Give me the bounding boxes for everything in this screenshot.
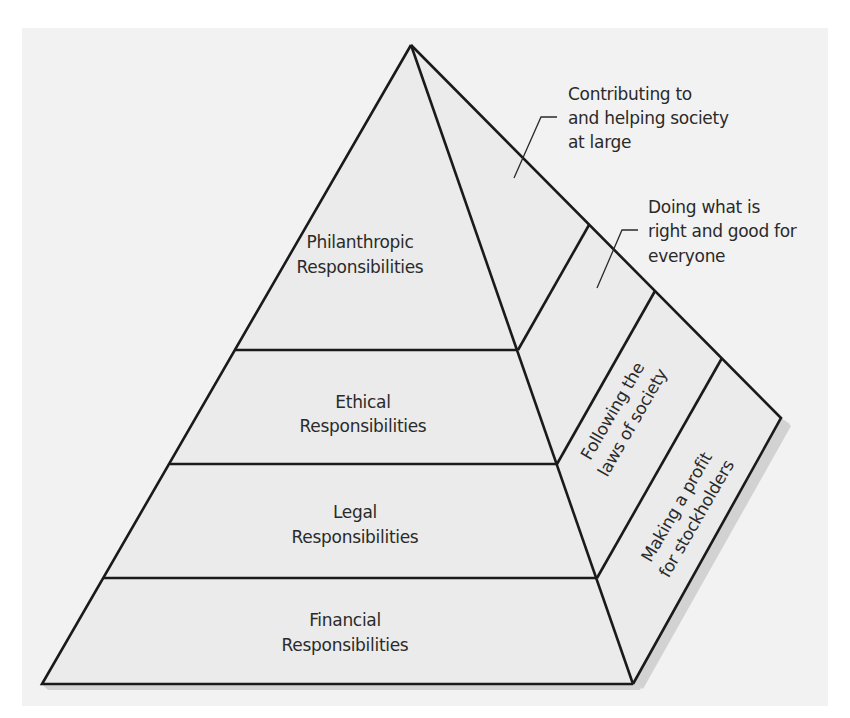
callout-philanthropic-1: Contributing to: [568, 84, 692, 104]
level-label-legal-2: Responsibilities: [292, 527, 419, 547]
callout-philanthropic-2: and helping society: [568, 108, 729, 128]
pyramid-diagram: Philanthropic Responsibilities Ethical R…: [0, 0, 850, 718]
pyramid-svg: Philanthropic Responsibilities Ethical R…: [0, 0, 850, 718]
callout-ethical-3: everyone: [648, 246, 725, 266]
level-label-philanthropic-2: Responsibilities: [297, 257, 424, 277]
level-label-financial-1: Financial: [309, 610, 381, 630]
callout-ethical-2: right and good for: [648, 221, 797, 241]
level-label-financial-2: Responsibilities: [282, 635, 409, 655]
level-label-ethical-2: Responsibilities: [300, 416, 427, 436]
level-label-ethical-1: Ethical: [335, 392, 390, 412]
callout-ethical-1: Doing what is: [648, 197, 760, 217]
callout-philanthropic-3: at large: [568, 132, 631, 152]
level-label-legal-1: Legal: [333, 502, 377, 522]
level-label-philanthropic-1: Philanthropic: [306, 232, 413, 252]
